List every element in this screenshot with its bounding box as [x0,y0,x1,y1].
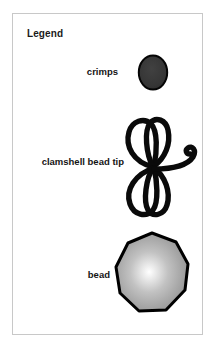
legend-entry-crimps: crimps [13,52,202,98]
round-bead-icon [113,231,191,316]
legend-panel: Legend crimps clamshell bead tip [12,13,203,335]
crimp-bead-icon [137,54,169,91]
clamshell-bead-tip-icon [113,112,205,222]
legend-label-clamshell-bead-tip: clamshell bead tip [42,156,124,167]
legend-entry-clamshell-bead-tip: clamshell bead tip [13,112,202,222]
legend-title: Legend [27,28,63,39]
legend-entry-bead: bead [13,229,202,319]
legend-label-crimps: crimps [87,66,118,77]
legend-label-bead: bead [88,269,110,280]
